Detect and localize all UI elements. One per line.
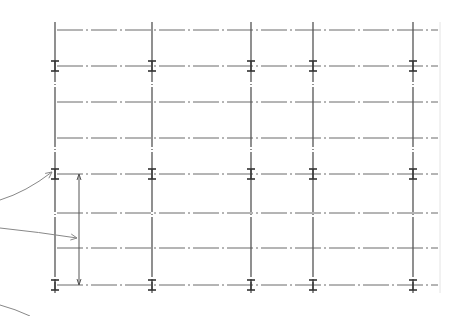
leader-to-dimension [0,228,77,238]
leader-arrows [0,172,77,316]
grid-plan-svg [0,0,460,316]
structural-grid-drawing [0,0,460,316]
horizontal-grid-lines [57,30,438,285]
vertical-column-lines [55,22,413,293]
dimension-line [77,174,81,285]
column-beam-markers [51,61,417,290]
leader-bottom-left [0,305,30,316]
leader-to-column-marker [0,172,52,200]
